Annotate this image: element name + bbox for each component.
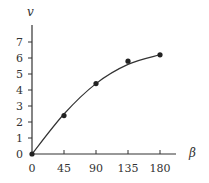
x-tick-label: 90 — [89, 162, 103, 175]
y-tick-label: 5 — [16, 68, 23, 81]
curve-path — [32, 55, 160, 154]
data-point — [125, 59, 130, 64]
y-axis-label: v — [27, 5, 34, 19]
y-tick-label: 4 — [16, 84, 23, 97]
data-points — [29, 52, 162, 156]
fit-curve — [32, 55, 160, 154]
x-tick-label: 180 — [150, 162, 171, 175]
y-tick-label: 2 — [16, 116, 23, 129]
data-point — [157, 52, 162, 57]
data-point — [93, 81, 98, 86]
y-tick-label: 3 — [16, 100, 23, 113]
axes: 0123456704590135180 — [16, 25, 176, 175]
y-tick-label: 0 — [16, 148, 23, 161]
x-axis-label: β — [188, 146, 196, 160]
x-tick-label: 135 — [118, 162, 139, 175]
data-point — [61, 113, 66, 118]
data-point — [29, 151, 34, 156]
y-tick-label: 7 — [16, 36, 23, 49]
y-tick-label: 6 — [16, 52, 23, 65]
x-tick-label: 0 — [29, 162, 36, 175]
y-tick-label: 1 — [16, 132, 23, 145]
chart: 0123456704590135180 v β — [0, 0, 209, 183]
x-tick-label: 45 — [57, 162, 71, 175]
